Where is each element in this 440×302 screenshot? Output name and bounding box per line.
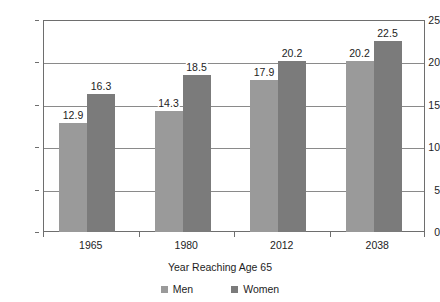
bar-group: 20.222.5 [330, 20, 426, 232]
x-axis-tick-label: 1980 [175, 239, 198, 251]
x-axis-tick-mark [234, 232, 235, 237]
bar-women-1965: 16.3 [87, 94, 115, 232]
x-axis-tick-mark [330, 232, 331, 237]
y-axis-tick-mark [35, 105, 39, 106]
y-axis-tick-mark [35, 20, 39, 21]
legend-swatch-icon [161, 286, 168, 293]
bar-value-label: 18.5 [185, 62, 207, 73]
bar-women-1980: 18.5 [183, 75, 211, 232]
y-axis-tick-mark [35, 62, 39, 63]
x-axis-tick-label: 1965 [79, 239, 102, 251]
x-axis-tick-labels: 1965198020122038 [43, 239, 425, 253]
x-axis-tick-mark [424, 232, 425, 237]
x-axis-tick-label: 2012 [270, 239, 293, 251]
bar-value-label: 17.9 [253, 67, 275, 78]
bar-chart: 0510152025 12.916.314.318.517.920.220.22… [0, 0, 440, 302]
y-axis-tick-mark [35, 190, 39, 191]
bar-value-label: 16.3 [90, 81, 112, 92]
bar-men-2012: 17.9 [250, 80, 278, 232]
y-axis-tick-mark [35, 232, 39, 233]
bar-men-1965: 12.9 [59, 123, 87, 232]
bar-value-label: 20.2 [348, 48, 370, 59]
legend-swatch-icon [231, 286, 238, 293]
legend-label: Men [173, 283, 193, 295]
chart-legend: MenWomen [0, 283, 440, 295]
bar-value-label: 22.5 [376, 28, 398, 39]
bar-women-2012: 20.2 [278, 61, 306, 232]
bar-value-label: 14.3 [157, 98, 179, 109]
bar-value-label: 20.2 [281, 48, 303, 59]
bar-group: 17.920.2 [234, 20, 330, 232]
bars-layer: 12.916.314.318.517.920.220.222.5 [43, 20, 425, 232]
x-axis-tick-mark [139, 232, 140, 237]
y-axis-tick-mark [35, 147, 39, 148]
bar-women-2038: 22.5 [374, 41, 402, 232]
bar-group: 14.318.5 [139, 20, 235, 232]
bar-value-label: 12.9 [62, 110, 84, 121]
legend-item-women: Women [231, 283, 279, 295]
x-axis-ticks [43, 232, 425, 238]
legend-item-men: Men [161, 283, 193, 295]
y-axis-ticks [0, 20, 39, 232]
bar-men-1980: 14.3 [155, 111, 183, 232]
x-axis-title: Year Reaching Age 65 [0, 261, 440, 273]
legend-label: Women [243, 283, 279, 295]
bar-group: 12.916.3 [43, 20, 139, 232]
bar-men-2038: 20.2 [346, 61, 374, 232]
x-axis-tick-label: 2038 [366, 239, 389, 251]
x-axis-tick-mark [43, 232, 44, 237]
